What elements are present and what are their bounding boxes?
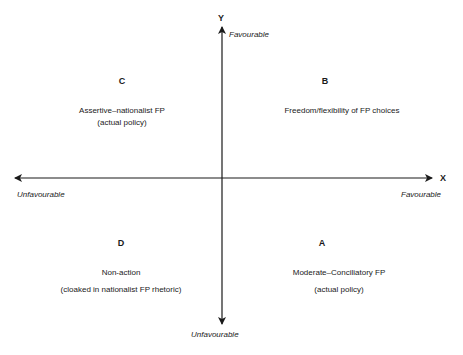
quadrant-a: A Moderate–Conciliatory FP (actual polic… — [274, 236, 404, 297]
x-positive-label: Favourable — [401, 190, 441, 200]
axes — [0, 0, 463, 355]
quadrant-a-letter: A — [257, 236, 387, 251]
quadrant-d-subtitle: (cloaked in nationalist FP rhetoric) — [36, 282, 206, 297]
y-positive-label: Favourable — [229, 30, 269, 40]
quadrant-d: D Non-action (cloaked in nationalist FP … — [36, 236, 206, 297]
x-axis-name: X — [440, 173, 446, 183]
quadrant-b-title: Freedom/flexibility of FP choices — [267, 103, 417, 118]
quadrant-b: B Freedom/flexibility of FP choices — [267, 74, 417, 118]
quadrant-c-letter: C — [57, 74, 187, 89]
quadrant-b-letter: B — [250, 74, 400, 89]
y-negative-label: Unfavourable — [191, 330, 239, 340]
quadrant-c-subtitle: (actual policy) — [57, 115, 187, 130]
quadrant-d-title: Non-action — [36, 265, 206, 280]
quadrant-d-letter: D — [36, 236, 206, 251]
y-axis-name: Y — [218, 13, 224, 23]
quadrant-diagram: Y X Favourable Unfavourable Unfavourable… — [0, 0, 463, 355]
quadrant-a-title: Moderate–Conciliatory FP — [274, 265, 404, 280]
quadrant-a-subtitle: (actual policy) — [274, 282, 404, 297]
x-negative-label: Unfavourable — [17, 190, 65, 200]
quadrant-c: C Assertive–nationalist FP (actual polic… — [57, 74, 187, 130]
